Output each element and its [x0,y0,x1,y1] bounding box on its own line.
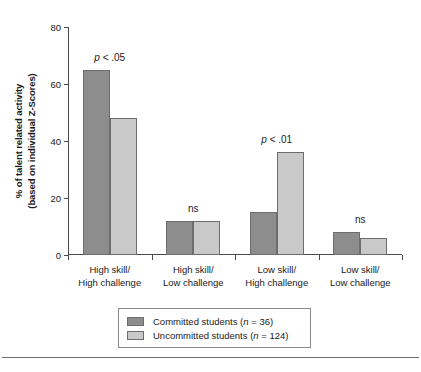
y-tick-mark [64,198,69,199]
y-axis-title: % of talent related activity (based on i… [8,26,42,256]
category-label-3: Low skill/Low challenge [330,264,391,289]
y-tick-label: 60 [50,79,61,90]
legend-swatch-uncommitted [127,331,144,340]
y-tick-mark [64,27,69,28]
legend-label-uncommitted: Uncommitted students (n = 124) [153,330,288,341]
x-tick-mark [402,255,403,260]
annotation-group-1: ns [188,203,199,214]
chart-legend: Committed students (n = 36) Uncommitted … [118,308,311,348]
legend-item-committed: Committed students (n = 36) [127,314,302,328]
y-tick-label: 40 [50,136,61,147]
bar-committed-group-1 [166,221,193,255]
legend-swatch-committed [127,317,144,326]
bar-uncommitted-group-1 [193,221,220,255]
plot-area: 020406080 p < .05nsp < .01ns [68,27,402,255]
bar-committed-group-2 [250,212,277,255]
x-tick-mark [152,255,153,260]
x-tick-mark [68,255,69,260]
x-tick-mark [319,255,320,260]
annotation-group-0: p < .05 [94,52,125,63]
legend-item-uncommitted: Uncommitted students (n = 124) [127,328,302,342]
annotation-group-3: ns [355,214,366,225]
x-tick-mark [235,255,236,260]
bar-committed-group-0 [83,70,110,255]
y-tick-label: 80 [50,22,61,33]
legend-label-committed: Committed students (n = 36) [153,316,273,327]
y-tick-label: 0 [56,250,61,261]
bar-uncommitted-group-2 [277,152,304,255]
footer-divider [2,357,419,358]
bar-committed-group-3 [333,232,360,255]
y-tick-mark [64,84,69,85]
bar-uncommitted-group-3 [360,238,387,255]
bar-chart-figure: % of talent related activity (based on i… [0,0,421,372]
y-tick-label: 20 [50,193,61,204]
y-axis-title-line-1: % of talent related activity [13,73,26,208]
category-label-1: High skill/Low challenge [163,264,224,289]
y-tick-mark [64,141,69,142]
annotation-group-2: p < .01 [261,134,292,145]
bar-uncommitted-group-0 [110,118,137,255]
y-axis-title-line-2: (based on individual Z-Scores) [25,73,38,208]
category-label-2: Low skill/High challenge [245,264,308,289]
category-label-0: High skill/High challenge [78,264,141,289]
